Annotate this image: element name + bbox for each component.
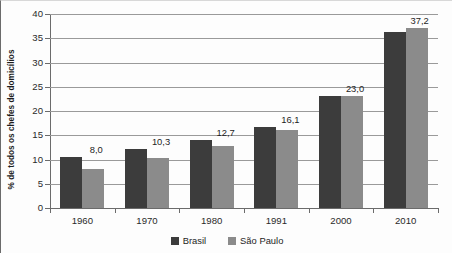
gridline xyxy=(50,63,438,64)
y-axis-tick-label: 15 xyxy=(17,130,43,140)
bar-value-label-1980: 12,7 xyxy=(206,127,246,138)
gridline xyxy=(50,14,438,15)
y-axis-tick-label: 40 xyxy=(17,9,43,19)
y-axis-tick-label: 30 xyxy=(17,58,43,68)
y-axis-tick-label: 35 xyxy=(17,33,43,43)
bar-value-label-1970: 10,3 xyxy=(141,136,181,147)
gridline xyxy=(50,160,438,161)
x-axis-tick-label-1960: 1960 xyxy=(54,215,110,226)
legend-item-brasil: Brasil xyxy=(171,235,206,246)
bar-brasil-1960 xyxy=(60,157,82,208)
legend-label: Brasil xyxy=(183,235,206,246)
x-axis-tick xyxy=(309,208,310,213)
x-axis-tick xyxy=(244,208,245,213)
chart-legend: BrasilSão Paulo xyxy=(1,235,452,246)
x-axis-tick xyxy=(179,208,180,213)
bar-brasil-1991 xyxy=(254,127,276,208)
bar-value-label-2010: 37,2 xyxy=(400,15,440,26)
y-axis-tick-label: 25 xyxy=(17,82,43,92)
y-axis-tick-label: 0 xyxy=(17,203,43,213)
y-axis-tick-label: 20 xyxy=(17,106,43,116)
gridline xyxy=(50,87,438,88)
bar-value-label-1960: 8,0 xyxy=(76,144,116,155)
y-axis-title: % de todos os chefes de domicílios xyxy=(1,19,21,219)
x-axis-tick xyxy=(115,208,116,213)
y-axis-title-text: % de todos os chefes de domicílios xyxy=(7,49,16,189)
x-axis-tick-label-2010: 2010 xyxy=(378,215,434,226)
x-axis-tick-label-1970: 1970 xyxy=(119,215,175,226)
bar-são-paulo-1991 xyxy=(276,130,298,208)
x-axis-tick xyxy=(373,208,374,213)
y-axis-tick-label: 10 xyxy=(17,155,43,165)
gridline xyxy=(50,184,438,185)
bar-brasil-1980 xyxy=(190,140,212,208)
bar-value-label-2000: 23,0 xyxy=(335,83,375,94)
bar-brasil-2010 xyxy=(384,32,406,208)
x-axis-tick-label-1991: 1991 xyxy=(248,215,304,226)
bar-são-paulo-1960 xyxy=(82,169,104,208)
x-axis-tick-label-2000: 2000 xyxy=(313,215,369,226)
legend-label: São Paulo xyxy=(240,235,283,246)
legend-swatch-icon xyxy=(171,237,179,245)
x-axis-end-tick xyxy=(438,208,439,213)
bar-brasil-1970 xyxy=(125,149,147,208)
legend-item-são-paulo: São Paulo xyxy=(228,235,283,246)
bar-são-paulo-1980 xyxy=(212,146,234,208)
gridline xyxy=(50,111,438,112)
bar-são-paulo-1970 xyxy=(147,158,169,208)
x-axis-tick xyxy=(50,208,51,213)
y-axis-tick-label: 5 xyxy=(17,179,43,189)
bar-value-label-1991: 16,1 xyxy=(270,114,310,125)
gridline xyxy=(50,38,438,39)
plot-area: 8,010,312,716,123,037,2 xyxy=(50,14,438,208)
legend-swatch-icon xyxy=(228,237,236,245)
bar-são-paulo-2000 xyxy=(341,96,363,208)
bar-chart-figure: % de todos os chefes de domicílios 05101… xyxy=(0,0,452,253)
x-axis-tick-label-1980: 1980 xyxy=(184,215,240,226)
bar-brasil-2000 xyxy=(319,96,341,208)
bar-são-paulo-2010 xyxy=(406,28,428,208)
